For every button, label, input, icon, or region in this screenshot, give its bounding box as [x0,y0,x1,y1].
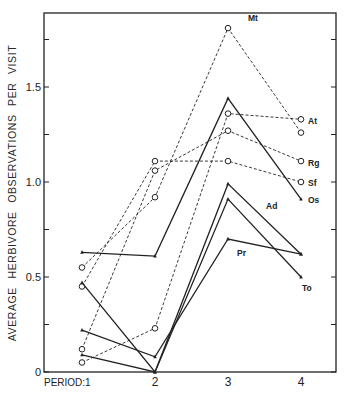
y-tick-label: 0 [35,366,41,378]
series-labels: MtAtRgSfOsAdPrTo [237,13,320,293]
series-line [82,199,301,372]
triangle-marker-icon [80,353,84,357]
y-tick-label: 0.5 [26,271,41,283]
circle-marker-icon [225,128,231,134]
series-label-to: To [302,283,312,293]
x-tick-label: 3 [225,375,232,389]
series-label-rg: Rg [308,158,319,168]
circle-marker-icon [152,158,158,164]
series-label-at: At [308,116,317,126]
circle-marker-icon [152,168,158,174]
series-layer [79,25,304,373]
circle-marker-icon [225,158,231,164]
series-pr [80,237,303,358]
plot-border [44,13,336,372]
circle-marker-icon [298,158,304,164]
series-line [82,114,301,363]
y-tick-label: 1.5 [26,81,41,93]
series-label-sf: Sf [308,178,317,188]
x-tick-label: 4 [298,375,305,389]
circle-marker-icon [152,194,158,200]
circle-marker-icon [79,265,85,271]
triangle-marker-icon [226,182,230,186]
series-os [80,96,303,257]
series-label-ad: Ad [266,201,277,211]
x-tick-label: PERIOD:1 [44,377,91,388]
x-tick-label: 2 [152,375,159,389]
triangle-marker-icon [80,281,84,285]
line-chart: MtAtRgSfOsAdPrTo 00.51.01.5PERIOD:1234 [0,0,352,394]
y-tick-label: 1.0 [26,176,41,188]
series-line [82,184,301,372]
series-line [82,28,301,267]
circle-marker-icon [298,117,304,123]
triangle-marker-icon [226,96,230,100]
series-label-pr: Pr [237,248,247,258]
series-line [82,98,301,256]
series-label-os: Os [308,195,320,205]
circle-marker-icon [79,360,85,366]
circle-marker-icon [79,346,85,352]
series-label-mt: Mt [248,13,258,23]
series-line [82,131,301,350]
circle-marker-icon [152,326,158,332]
plot-frame [44,13,336,372]
circle-marker-icon [298,130,304,136]
triangle-marker-icon [226,197,230,201]
circle-marker-icon [225,25,231,31]
axis-ticks: 00.51.01.5PERIOD:1234 [26,40,336,390]
circle-marker-icon [225,111,231,117]
triangle-marker-icon [80,328,84,332]
circle-marker-icon [298,179,304,185]
series-line [82,239,301,357]
